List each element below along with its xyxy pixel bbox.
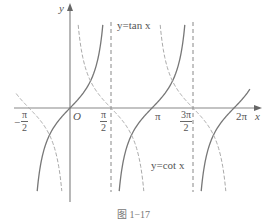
frac-den: 2 (21, 122, 28, 133)
frac-den: 2 (180, 122, 192, 133)
frac-den: 2 (100, 122, 107, 133)
cot-label-text: y=cot x (151, 159, 184, 171)
y-axis-arrow-icon (67, 3, 73, 11)
tick-label-pi: π (155, 111, 161, 122)
tick-label-neg-pi-half: π 2 (21, 110, 28, 133)
figure: y x O y=tan x y=cot x − π 2 π 2 π 3π 2 2… (0, 0, 267, 220)
frac-num: π (21, 110, 28, 122)
tick-label-pi-half: π 2 (100, 110, 107, 133)
origin-label: O (73, 111, 81, 122)
y-axis-label: y (59, 3, 64, 14)
frac-num: 3π (180, 110, 192, 122)
tan-curve-branch (201, 89, 250, 191)
tan-curve-label: y=tan x (117, 20, 150, 31)
figure-caption: 图 1−17 (0, 206, 267, 220)
tan-label-text: y=tan x (117, 19, 150, 31)
frac-num: π (100, 110, 107, 122)
tan-cot-plot (0, 0, 267, 220)
tick-label-three-pi-half: 3π 2 (180, 110, 192, 133)
x-axis-label: x (255, 111, 260, 122)
neg-sign: − (14, 117, 20, 128)
cot-curve-label: y=cot x (151, 160, 184, 171)
tick-label-two-pi: 2π (236, 111, 247, 122)
